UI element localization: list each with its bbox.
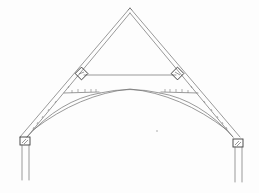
right-wall-post	[235, 147, 242, 182]
left-principal-rafter	[20, 8, 130, 137]
truss-drawing: Arch-braced roof truss sketch	[0, 0, 259, 193]
left-purlin-block	[75, 67, 88, 80]
arch-brace	[27, 89, 233, 137]
left-wall-plate	[20, 137, 30, 145]
right-wall-plate	[233, 139, 243, 147]
truss-sketch	[0, 0, 259, 193]
right-principal-rafter	[130, 8, 240, 137]
left-wall-post	[22, 145, 29, 180]
